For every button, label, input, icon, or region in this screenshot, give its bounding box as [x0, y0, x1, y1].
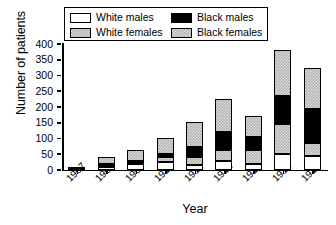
bar-segment-1908-black-males	[98, 164, 115, 166]
legend-item-black-females[interactable]: Black females	[171, 26, 262, 40]
bar-1914[interactable]	[274, 44, 291, 170]
y-tick-label: 100	[35, 132, 53, 144]
legend-swatch-white-males	[70, 13, 91, 23]
y-tick-mark	[57, 153, 61, 155]
y-tick-mark	[57, 75, 61, 77]
y-axis-title: Number of patients	[14, 0, 28, 133]
bar-segment-1913-white-males	[245, 164, 262, 170]
legend-label-black-females: Black females	[197, 27, 262, 38]
bar-1913[interactable]	[245, 44, 262, 170]
y-tick-label: 250	[35, 85, 53, 97]
legend-label-white-males: White males	[96, 12, 154, 23]
bar-segment-1914-white-males	[274, 154, 291, 170]
bar-segment-1911-white-males	[186, 165, 203, 170]
bar-segment-1912-white-females	[215, 150, 232, 160]
bar-segment-1910-black-males	[157, 154, 174, 157]
y-tick-mark	[57, 43, 61, 45]
bar-segment-1907-white-females	[68, 167, 85, 169]
legend-swatch-white-females	[70, 28, 91, 38]
legend-item-black-males[interactable]: Black males	[171, 11, 262, 25]
legend-label-white-females: White females	[96, 27, 163, 38]
bar-1910[interactable]	[157, 44, 174, 170]
bar-1907[interactable]	[68, 44, 85, 170]
bar-segment-1910-white-males	[157, 162, 174, 170]
y-tick-mark	[57, 122, 61, 124]
bar-segment-1911-black-males	[186, 147, 203, 157]
bar-1909[interactable]	[127, 44, 144, 170]
y-tick-label: 200	[35, 101, 53, 113]
legend-column-right: Black malesBlack females	[171, 11, 262, 41]
bar-segment-1909-white-males	[127, 164, 144, 170]
bar-segment-1909-black-females	[127, 150, 144, 161]
y-tick-label: 0	[47, 164, 53, 176]
bar-segment-1914-white-females	[274, 124, 291, 154]
bar-segment-1913-white-females	[245, 150, 262, 165]
y-tick-mark	[57, 90, 61, 92]
bar-chart: Number of patients 050100150200250300350…	[0, 0, 336, 225]
bar-segment-1911-black-females	[186, 122, 203, 148]
bar-segment-1913-black-males	[245, 137, 262, 150]
y-tick-label: 300	[35, 69, 53, 81]
bar-segment-1914-black-males	[274, 96, 291, 124]
bar-segment-1915-white-males	[304, 156, 321, 170]
legend-swatch-black-females	[171, 28, 192, 38]
bar-segment-1915-black-females	[304, 68, 321, 109]
bar-segment-1911-white-females	[186, 157, 203, 165]
bar-1911[interactable]	[186, 44, 203, 170]
bar-segment-1908-black-females	[98, 157, 115, 164]
plot-area	[62, 44, 327, 170]
y-tick-mark	[57, 59, 61, 61]
y-tick-mark	[57, 106, 61, 108]
bar-segment-1910-black-females	[157, 138, 174, 154]
y-tick-label: 350	[35, 53, 53, 65]
bar-segment-1914-black-females	[274, 50, 291, 96]
bar-1915[interactable]	[304, 44, 321, 170]
bar-segment-1913-black-females	[245, 116, 262, 136]
y-tick-mark	[57, 169, 61, 171]
bar-segment-1910-white-females	[157, 157, 174, 163]
bar-segment-1915-black-males	[304, 109, 321, 144]
legend-column-left: White malesWhite females	[70, 11, 163, 41]
legend-swatch-black-males	[171, 13, 192, 23]
bar-segment-1915-white-females	[304, 143, 321, 156]
bar-1908[interactable]	[98, 44, 115, 170]
bar-segment-1912-white-males	[215, 161, 232, 170]
x-axis-title: Year	[62, 202, 328, 216]
y-tick-mark	[57, 138, 61, 140]
bar-segment-1912-black-females	[215, 99, 232, 132]
bar-1912[interactable]	[215, 44, 232, 170]
y-tick-label: 50	[41, 148, 53, 160]
y-tick-label: 150	[35, 116, 53, 128]
bar-segment-1912-black-males	[215, 132, 232, 151]
legend-item-white-females[interactable]: White females	[70, 26, 163, 40]
chart-legend: White malesWhite females Black malesBlac…	[64, 7, 268, 41]
bar-segment-1908-white-males	[98, 167, 115, 170]
y-tick-label: 400	[35, 38, 53, 50]
legend-item-white-males[interactable]: White males	[70, 11, 163, 25]
legend-label-black-males: Black males	[197, 12, 254, 23]
